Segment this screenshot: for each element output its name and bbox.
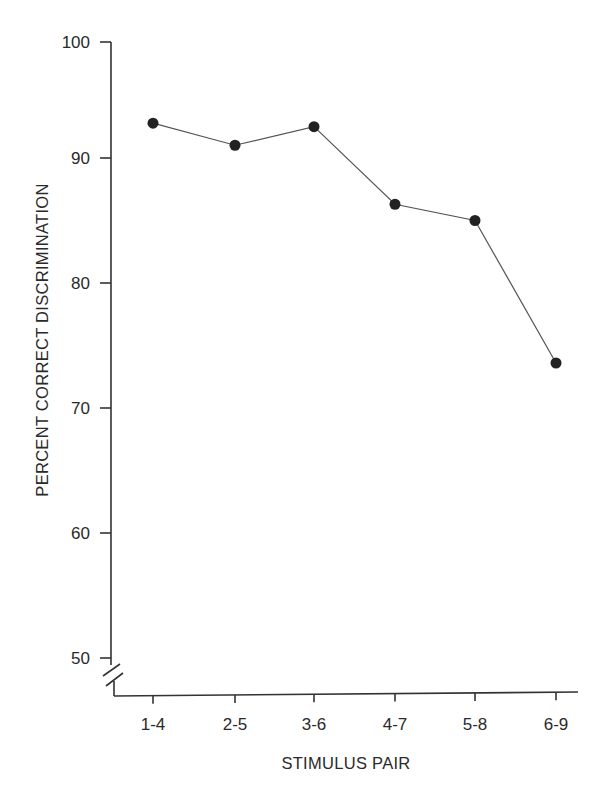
line-chart: 5060708090100 PERCENT CORRECT DISCRIMINA…: [0, 0, 607, 798]
y-axis: 5060708090100 PERCENT CORRECT DISCRIMINA…: [33, 33, 123, 696]
y-tick-label: 50: [71, 649, 90, 668]
x-ticks: 1-42-53-64-75-86-9: [141, 692, 569, 734]
x-tick-label: 2-5: [223, 715, 248, 734]
x-axis-title: STIMULUS PAIR: [281, 754, 410, 772]
x-tick-label: 3-6: [302, 715, 327, 734]
y-ticks: 5060708090100: [62, 33, 111, 668]
data-point-marker: [230, 140, 241, 151]
y-tick-label: 60: [71, 524, 90, 543]
y-axis-title: PERCENT CORRECT DISCRIMINATION: [33, 183, 51, 496]
x-axis: 1-42-53-64-75-86-9 STIMULUS PAIR: [114, 692, 578, 772]
series-line: [153, 123, 556, 363]
x-tick-label: 6-9: [544, 715, 569, 734]
data-point-marker: [470, 215, 481, 226]
y-tick-label: 70: [71, 399, 90, 418]
x-tick-label: 5-8: [463, 715, 488, 734]
data-point-marker: [551, 358, 562, 369]
x-tick-label: 1-4: [141, 715, 166, 734]
data-point-marker: [390, 199, 401, 210]
y-tick-label: 80: [71, 274, 90, 293]
data-point-marker: [148, 118, 159, 129]
axis-break-mark-upper: [103, 664, 120, 676]
data-point-marker: [309, 121, 320, 132]
y-tick-label: 100: [62, 33, 90, 52]
x-tick-label: 4-7: [383, 715, 408, 734]
y-tick-label: 90: [71, 149, 90, 168]
x-axis-line: [114, 692, 578, 696]
data-series: [148, 118, 562, 369]
